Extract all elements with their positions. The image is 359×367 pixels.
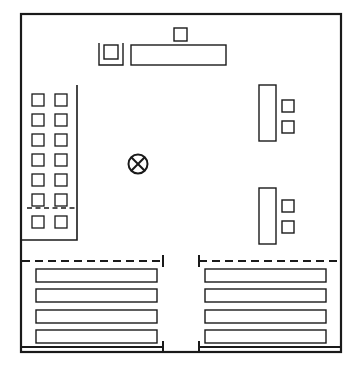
lower-right-unit-square-2 — [282, 221, 294, 233]
left-array-cell-r6-c1 — [32, 194, 44, 206]
top-bracketed-square — [104, 45, 118, 59]
left-array-cell-r1-c1 — [32, 94, 44, 106]
left-array-cell-r6-c2 — [55, 194, 67, 206]
top-small-square — [174, 28, 187, 41]
left-array-cell-r2-c2 — [55, 114, 67, 126]
bottom-right-rack-bay-bar-3 — [205, 310, 326, 323]
lower-right-unit-tall-bar — [259, 188, 276, 244]
bottom-right-rack-bay-bar-2 — [205, 289, 326, 302]
lower-right-unit-square-1 — [282, 200, 294, 212]
left-array-cell-r2-c1 — [32, 114, 44, 126]
left-array-cell-r1-c2 — [55, 94, 67, 106]
left-array-cell-r5-c2 — [55, 174, 67, 186]
left-array-cell-r3-c2 — [55, 134, 67, 146]
left-array-cell-r4-c2 — [55, 154, 67, 166]
bottom-left-rack-bay-bar-3 — [36, 310, 157, 323]
upper-right-unit-tall-bar — [259, 85, 276, 141]
bottom-left-rack-bay-bar-4 — [36, 330, 157, 343]
left-array-cell-r4-c1 — [32, 154, 44, 166]
left-array-cell-r5-c1 — [32, 174, 44, 186]
upper-right-unit-square-1 — [282, 100, 294, 112]
left-array-cell-r7-c1 — [32, 216, 44, 228]
bottom-left-rack-bay-bar-2 — [36, 289, 157, 302]
left-array-cell-r3-c1 — [32, 134, 44, 146]
bottom-right-rack-bay-bar-1 — [205, 269, 326, 282]
center-cross-circle-icon — [129, 155, 148, 174]
upper-right-unit-square-2 — [282, 121, 294, 133]
bottom-left-rack-bay-bar-1 — [36, 269, 157, 282]
layout-diagram — [0, 0, 359, 367]
bottom-right-rack-bay-bar-4 — [205, 330, 326, 343]
diagram-canvas — [0, 0, 359, 367]
left-array-cell-r7-c2 — [55, 216, 67, 228]
top-long-bar — [131, 45, 226, 65]
